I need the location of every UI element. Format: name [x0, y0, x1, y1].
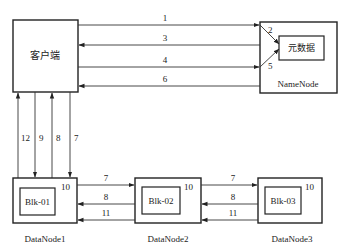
pipeline-dn1-dn2: 7 8 11: [77, 173, 135, 220]
pipeline-arrow-8a-label: 8: [104, 192, 109, 202]
arrow-3-label: 3: [163, 33, 168, 43]
datanode-1-label: DataNode1: [25, 234, 66, 244]
client-node: 客户端: [13, 20, 78, 92]
datanode-3-label: DataNode3: [272, 234, 313, 244]
arrow-6-label: 6: [163, 74, 168, 84]
client-namenode-arrows: 1 3 4 6: [78, 13, 260, 86]
namenode-node: 元数据 NameNode 2 5: [260, 22, 337, 93]
block-label-3: Blk-03: [270, 196, 296, 206]
pipeline-arrow-8b-label: 8: [231, 192, 236, 202]
datanode-3-corner: 10: [305, 182, 315, 192]
pipeline-arrow-11a-label: 11: [102, 208, 111, 218]
arrow-1-label: 1: [163, 13, 168, 23]
block-label-1: Blk-01: [25, 197, 50, 207]
pipeline-arrow-7b-label: 7: [231, 173, 236, 183]
arrow-8-label: 8: [56, 133, 61, 143]
block-label-2: Blk-02: [148, 196, 173, 206]
client-datanode-arrows: 12 9 8 7: [18, 92, 79, 178]
metadata-label: 元数据: [288, 42, 315, 53]
datanode-1-corner: 10: [61, 182, 71, 192]
hdfs-write-diagram: 客户端 元数据 NameNode 2 5 1 3 4 6 12 9 8 7: [0, 0, 343, 252]
datanode-1: Blk-01 10 DataNode1: [13, 178, 77, 244]
arrow-9-label: 9: [39, 133, 44, 143]
arrow-4-label: 4: [163, 55, 168, 65]
namenode-in-label-5: 5: [268, 61, 273, 71]
datanode-2-corner: 10: [184, 182, 194, 192]
arrow-12-label: 12: [21, 133, 30, 143]
datanode-3: Blk-03 10 DataNode3: [258, 178, 322, 244]
pipeline-arrow-11b-label: 11: [229, 208, 238, 218]
pipeline-dn2-dn3: 7 8 11: [201, 173, 258, 220]
datanode-2: Blk-02 10 DataNode2: [135, 178, 201, 244]
namenode-label: NameNode: [278, 79, 319, 89]
client-label: 客户端: [30, 49, 60, 61]
pipeline-arrow-7a-label: 7: [104, 173, 109, 183]
arrow-7-label: 7: [74, 133, 79, 143]
datanode-2-label: DataNode2: [148, 234, 189, 244]
